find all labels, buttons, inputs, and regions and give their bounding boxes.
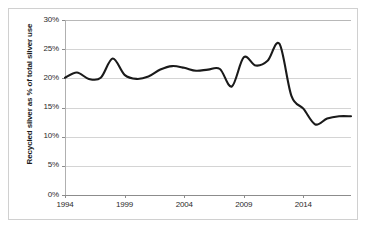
x-tick-label-1999: 1999 bbox=[108, 200, 142, 209]
axes-group bbox=[65, 20, 351, 196]
x-tick-label-1994: 1994 bbox=[48, 200, 82, 209]
chart-plot-container: Recycled silver as % of total silver use… bbox=[0, 0, 368, 235]
x-tick-label-2014: 2014 bbox=[286, 200, 320, 209]
line-series-recycled-silver bbox=[65, 43, 351, 125]
x-tick-label-2009: 2009 bbox=[227, 200, 261, 209]
y-tick-label-15%: 15% bbox=[33, 102, 59, 111]
y-tick-label-0%: 0% bbox=[33, 190, 59, 199]
y-tick-label-5%: 5% bbox=[33, 160, 59, 169]
chart-figure: Recycled silver as % of total silver use… bbox=[0, 0, 368, 235]
gridlines-group bbox=[65, 21, 351, 167]
y-tick-label-25%: 25% bbox=[33, 44, 59, 53]
data-series-group bbox=[65, 43, 351, 125]
x-tick-label-2004: 2004 bbox=[167, 200, 201, 209]
y-tick-label-10%: 10% bbox=[33, 131, 59, 140]
y-tick-label-30%: 30% bbox=[33, 15, 59, 24]
y-tick-label-20%: 20% bbox=[33, 73, 59, 82]
tick-marks-group bbox=[62, 21, 304, 199]
